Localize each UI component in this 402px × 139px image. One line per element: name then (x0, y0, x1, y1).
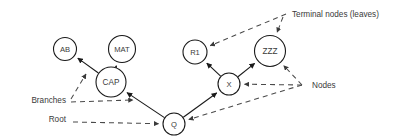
pointer-nodes-zzz (284, 66, 302, 85)
edge-x-zzz (238, 63, 255, 76)
pointer-branches-lower (71, 100, 133, 102)
node-ab[interactable]: AB (54, 38, 77, 61)
annotations-layer: Terminal nodes (leaves)NodesBranchesRoot (31, 10, 379, 124)
pointer-root-q (73, 122, 159, 124)
pointer-nodes-q (189, 85, 302, 119)
annotation-label-nodes: Nodes (312, 81, 336, 90)
node-q[interactable]: Q (163, 113, 185, 135)
node-mat[interactable]: MAT (109, 36, 136, 63)
node-label-q: Q (171, 120, 177, 129)
pointer-branches-upper (71, 74, 86, 99)
edge-q-x (183, 93, 216, 117)
annotation-root: Root (49, 115, 159, 124)
node-label-x: X (226, 80, 231, 89)
node-label-r1: R1 (190, 48, 200, 57)
node-label-mat: MAT (114, 45, 130, 54)
node-label-zzz: ZZZ (262, 47, 277, 56)
node-label-ab: AB (60, 45, 70, 54)
edge-cap-mat (116, 66, 117, 68)
edge-cap-ab (78, 58, 99, 73)
pointer-nodes-x (244, 84, 302, 85)
nodes-layer: ABMATCAPR1ZZZXQ (54, 36, 286, 136)
edge-q-cap (127, 93, 164, 118)
annotation-label-terminal-nodes: Terminal nodes (leaves) (292, 10, 379, 19)
annotation-nodes: Nodes (189, 66, 336, 120)
node-cap[interactable]: CAP (96, 67, 126, 97)
node-zzz[interactable]: ZZZ (255, 36, 286, 67)
pointer-terminal-zzz (277, 17, 283, 32)
edge-x-r1 (207, 63, 221, 76)
node-r1[interactable]: R1 (183, 40, 207, 64)
annotation-terminal-nodes: Terminal nodes (leaves) (210, 10, 379, 46)
annotation-label-branches: Branches (31, 96, 66, 105)
tree-diagram: Terminal nodes (leaves)NodesBranchesRoot… (0, 0, 402, 139)
annotation-label-root: Root (49, 115, 67, 124)
node-x[interactable]: X (218, 73, 240, 95)
node-label-cap: CAP (103, 78, 120, 87)
diagram-canvas: Terminal nodes (leaves)NodesBranchesRoot… (0, 0, 402, 139)
